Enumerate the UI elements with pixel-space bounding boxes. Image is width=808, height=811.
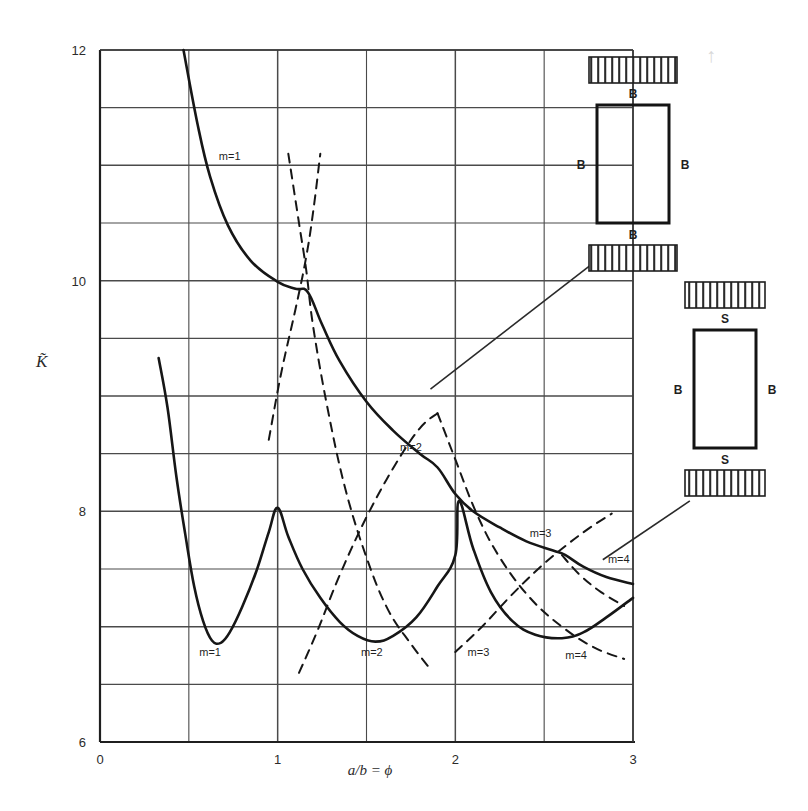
edge-label-left: B — [577, 158, 586, 172]
edge-label-bottom: B — [629, 228, 638, 242]
curve-label-m-4: m=4 — [608, 553, 630, 565]
curve-label-m-3: m=3 — [468, 646, 490, 658]
x-tick-label: 2 — [452, 752, 459, 767]
chart-svg: 6810120123 m=1m=2m=3m=4m=1m=2m=3m=4 BBBB… — [0, 0, 808, 811]
curve-label-m-2: m=2 — [361, 646, 383, 658]
x-tick-label: 0 — [96, 752, 103, 767]
x-axis-title: a/b = ϕ — [348, 762, 393, 778]
y-axis-title: K̃ — [35, 352, 49, 371]
y-tick-label: 8 — [79, 504, 86, 519]
y-tick-label: 10 — [72, 274, 86, 289]
curve-label-m-3: m=3 — [530, 527, 552, 539]
edge-label-top: S — [721, 312, 729, 326]
y-tick-label: 12 — [72, 43, 86, 58]
curve-label-m-2: m=2 — [400, 441, 422, 453]
edge-label-bottom: S — [721, 453, 729, 467]
page-background — [0, 0, 808, 811]
y-tick-label: 6 — [79, 735, 86, 750]
x-tick-label: 1 — [274, 752, 281, 767]
edge-label-top: B — [629, 87, 638, 101]
figure-canvas: 6810120123 m=1m=2m=3m=4m=1m=2m=3m=4 BBBB… — [0, 0, 808, 811]
curve-label-m-1: m=1 — [219, 150, 241, 162]
edge-label-right: B — [681, 158, 690, 172]
hatch-block-bottom — [685, 470, 765, 496]
hatch-block-top — [685, 282, 765, 308]
curve-label-m-4: m=4 — [565, 649, 587, 661]
edge-label-left: B — [674, 383, 683, 397]
hatch-block-top — [589, 57, 677, 83]
curve-label-m-1: m=1 — [199, 646, 221, 658]
edge-label-right: B — [768, 383, 777, 397]
corner-arrow-icon: ↑ — [706, 44, 716, 66]
x-tick-label: 3 — [629, 752, 636, 767]
hatch-block-bottom — [589, 245, 677, 271]
